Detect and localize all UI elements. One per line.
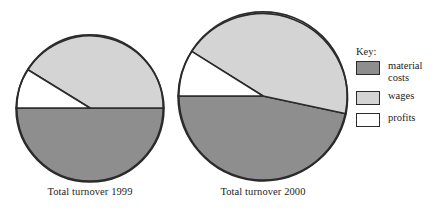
legend-title: Key: bbox=[356, 46, 442, 58]
legend-swatch-profits bbox=[356, 113, 380, 127]
pie-chart-2000 bbox=[178, 11, 348, 181]
legend-swatch-wages bbox=[356, 91, 380, 105]
legend-item-profits: profits bbox=[356, 112, 442, 127]
legend-item-material-costs: material costs bbox=[356, 60, 442, 83]
legend-swatch-material-costs bbox=[356, 61, 380, 75]
slice-material-costs-1999 bbox=[16, 108, 164, 182]
legend-label-material-costs: material costs bbox=[388, 60, 422, 83]
pie-chart-2000-caption: Total turnover 2000 bbox=[178, 186, 348, 198]
pie-chart-figure: Total turnover 1999 Total turnover 2000 … bbox=[0, 0, 443, 209]
legend-item-wages: wages bbox=[356, 90, 442, 105]
pie-chart-1999-svg bbox=[16, 34, 164, 182]
legend-label-wages: wages bbox=[388, 90, 414, 102]
pie-chart-2000-svg bbox=[178, 11, 348, 181]
pie-chart-1999-caption: Total turnover 1999 bbox=[16, 186, 164, 198]
chart-legend: Key: material costs wages profits bbox=[356, 46, 442, 134]
legend-label-profits: profits bbox=[388, 112, 415, 124]
pie-chart-1999 bbox=[16, 34, 164, 182]
